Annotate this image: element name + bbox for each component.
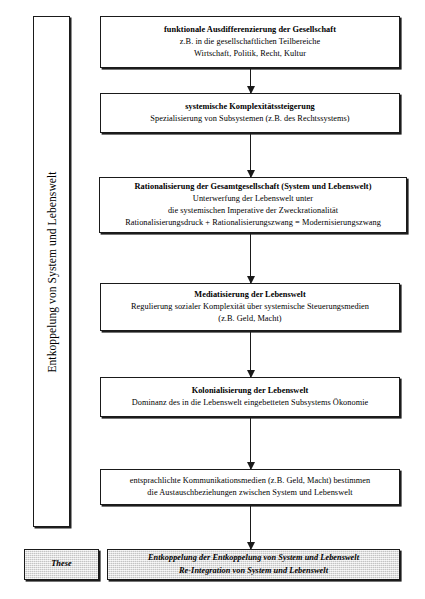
node-systemische-komplexitaetssteigerung: systemische Komplexitätssteigerung Spezi…	[100, 93, 400, 133]
node-entkoppelung-der-entkoppelung: Entkoppelung der Entkoppelung von System…	[107, 549, 400, 580]
node-kolonialisierung-lebenswelt: Kolonialisierung der Lebenswelt Dominanz…	[100, 377, 400, 417]
node-line: Regulierung sozialer Komplexität über sy…	[131, 301, 369, 313]
node-line: Wirtschaft, Politik, Recht, Kultur	[194, 48, 306, 60]
node-line: Rationalisierungsdruck + Rationalisierun…	[125, 217, 381, 229]
arrow-connector	[250, 331, 251, 377]
node-line: z.B. in die gesellschaftlichen Teilberei…	[180, 36, 321, 48]
node-mediatisierung-lebenswelt: Mediatisierung der Lebenswelt Regulierun…	[100, 283, 400, 331]
node-line: Dominanz des in die Lebenswelt eingebett…	[132, 397, 369, 409]
node-funktionale-ausdifferenzierung: funktionale Ausdifferenzierung der Gesel…	[100, 16, 400, 68]
side-bracket-label: Entkoppelung von System und Lebenswelt	[46, 171, 58, 372]
arrow-connector	[250, 68, 251, 93]
arrow-connector	[250, 133, 251, 177]
node-rationalisierung-gesamtgesellschaft: Rationalisierung der Gesamtgesellschaft …	[99, 177, 407, 233]
node-line: Entkoppelung der Entkoppelung von System…	[148, 552, 359, 564]
node-heading: Kolonialisierung der Lebenswelt	[192, 385, 309, 397]
node-line: Unterwerfung der Lebenswelt unter	[193, 193, 313, 205]
node-heading: Rationalisierung der Gesamtgesellschaft …	[135, 181, 372, 193]
flowchart-canvas: Entkoppelung von System und Lebenswelt f…	[0, 0, 425, 599]
thesis-tag-box: These	[24, 549, 99, 580]
node-line: Re-Integration von System und Lebenswelt	[179, 565, 328, 577]
node-line: die systemischen Imperative der Zweckrat…	[168, 205, 338, 217]
side-bracket-entkoppelung: Entkoppelung von System und Lebenswelt	[33, 16, 70, 527]
node-heading: funktionale Ausdifferenzierung der Gesel…	[164, 24, 336, 36]
node-heading: Mediatisierung der Lebenswelt	[194, 289, 305, 301]
node-line: die Austauschbeziehungen zwischen System…	[147, 487, 352, 499]
node-line: entsprachlichte Kommunikationsmedien (z.…	[130, 475, 371, 487]
thesis-tag-label: These	[51, 558, 72, 570]
arrow-connector	[250, 505, 251, 549]
arrow-connector	[250, 417, 251, 469]
node-line: Spezialisierung von Subsystemen (z.B. de…	[150, 113, 349, 125]
arrow-connector	[250, 233, 251, 283]
node-heading: systemische Komplexitätssteigerung	[185, 101, 315, 113]
node-line: (z.B. Geld, Macht)	[218, 313, 281, 325]
node-entsprachlichte-kommunikationsmedien: entsprachlichte Kommunikationsmedien (z.…	[100, 469, 400, 505]
